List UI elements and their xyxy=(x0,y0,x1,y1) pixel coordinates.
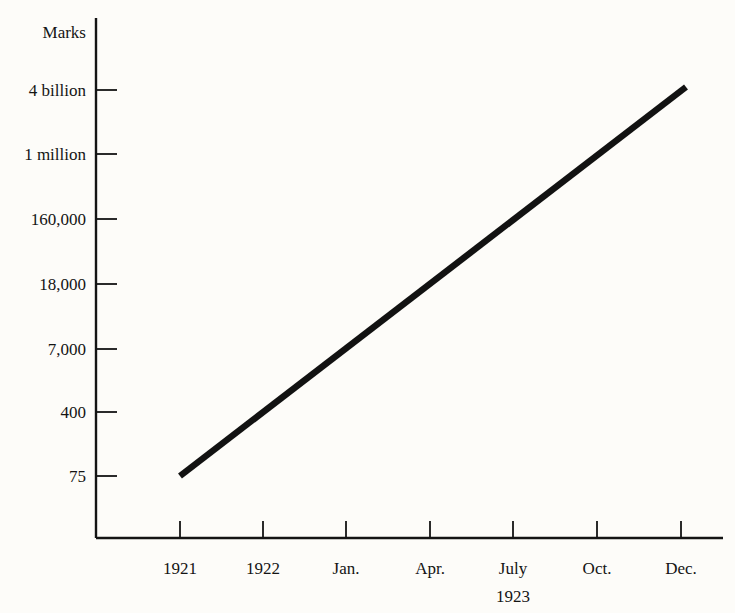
x-tick-label-1921: 1921 xyxy=(163,560,197,577)
y-tick-label-400: 400 xyxy=(0,404,86,421)
y-axis-ticks xyxy=(96,90,117,476)
x-tick-label-july: July xyxy=(499,560,527,577)
y-tick-label-1-million: 1 million xyxy=(0,146,86,163)
x-tick-label-apr: Apr. xyxy=(415,560,445,577)
x-tick-label-1922: 1922 xyxy=(246,560,280,577)
data-series-line xyxy=(180,87,686,476)
y-tick-label-160000: 160,000 xyxy=(0,211,86,228)
y-tick-label-4-billion: 4 billion xyxy=(0,82,86,99)
chart-figure: Marks 4 billion 1 million 160,000 18,000… xyxy=(0,0,735,613)
x-tick-label-dec: Dec. xyxy=(665,560,697,577)
y-tick-label-7000: 7,000 xyxy=(0,341,86,358)
y-tick-label-75: 75 xyxy=(0,468,86,485)
x-tick-label-oct: Oct. xyxy=(583,560,612,577)
y-axis-title: Marks xyxy=(0,24,86,41)
x-tick-label-jan: Jan. xyxy=(333,560,360,577)
chart-plot-area xyxy=(0,0,735,613)
x-axis-ticks xyxy=(180,521,681,538)
x-axis-year-label: 1923 xyxy=(496,588,530,605)
y-tick-label-18000: 18,000 xyxy=(0,276,86,293)
